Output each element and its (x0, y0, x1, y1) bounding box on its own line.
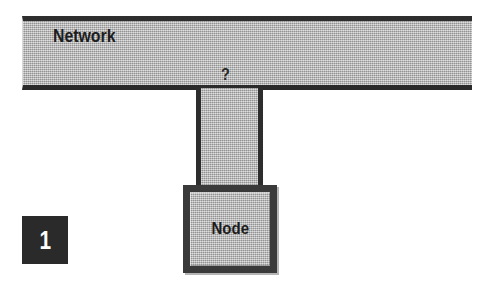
figure-number-text: 1 (39, 227, 51, 253)
figure-number-badge: 1 (22, 216, 68, 264)
network-bar-label: Network (53, 26, 115, 47)
figure-canvas: Network ? Node 1 (0, 0, 481, 289)
node-box: Node (183, 185, 277, 273)
network-bar: Network ? (22, 16, 472, 90)
node-box-label: Node (211, 219, 248, 239)
question-mark-annotation: ? (221, 65, 230, 85)
vertical-connector (196, 88, 263, 188)
